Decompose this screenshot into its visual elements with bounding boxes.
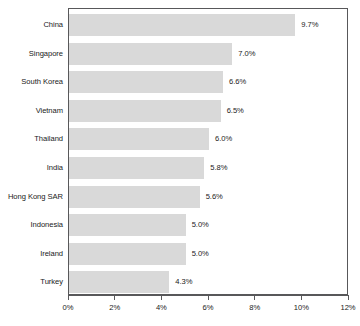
- x-axis-tick: [254, 295, 255, 300]
- bar-value-label: 4.3%: [175, 277, 192, 286]
- bar-value-label: 6.0%: [215, 134, 232, 143]
- bar-value-label: 9.7%: [301, 20, 318, 29]
- x-axis-tick-label: 6%: [203, 303, 214, 312]
- bar-value-label: 5.6%: [206, 192, 223, 201]
- x-axis-tick-label: 12%: [340, 303, 355, 312]
- category-label: Turkey: [0, 278, 63, 286]
- x-axis-tick: [114, 295, 115, 300]
- bar-chart: ChinaSingaporeSouth KoreaVietnamThailand…: [0, 0, 360, 326]
- bar-row: 5.6%: [69, 186, 347, 208]
- category-label: South Korea: [0, 78, 63, 86]
- bar-value-label: 6.5%: [227, 106, 244, 115]
- bar: [69, 128, 209, 150]
- x-axis-tick: [301, 295, 302, 300]
- x-axis-tick-label: 4%: [156, 303, 167, 312]
- category-label: Thailand: [0, 135, 63, 143]
- category-label: Hong Kong SAR: [0, 193, 63, 201]
- bar: [69, 271, 169, 293]
- bar-row: 9.7%: [69, 14, 347, 36]
- bar: [69, 243, 186, 265]
- bar-row: 6.0%: [69, 128, 347, 150]
- bar-row: 5.0%: [69, 243, 347, 265]
- category-axis: ChinaSingaporeSouth KoreaVietnamThailand…: [0, 9, 63, 295]
- x-axis-tick: [68, 295, 69, 300]
- bar-row: 6.6%: [69, 71, 347, 93]
- bar-value-label: 5.0%: [192, 220, 209, 229]
- x-axis-tick-label: 2%: [109, 303, 120, 312]
- bar: [69, 71, 223, 93]
- x-axis-tick-label: 10%: [294, 303, 309, 312]
- category-label: Ireland: [0, 250, 63, 258]
- bar: [69, 214, 186, 236]
- bar-row: 5.0%: [69, 214, 347, 236]
- x-axis-tick: [208, 295, 209, 300]
- category-label: India: [0, 164, 63, 172]
- category-label: Indonesia: [0, 221, 63, 229]
- x-axis-tick: [161, 295, 162, 300]
- bar: [69, 100, 221, 122]
- category-label: China: [0, 21, 63, 29]
- bar-row: 4.3%: [69, 271, 347, 293]
- category-label: Singapore: [0, 50, 63, 58]
- x-axis-tick-label: 8%: [249, 303, 260, 312]
- category-label: Vietnam: [0, 107, 63, 115]
- bar-value-label: 5.8%: [210, 163, 227, 172]
- bar-row: 6.5%: [69, 100, 347, 122]
- bar-value-label: 6.6%: [229, 77, 246, 86]
- x-axis-tick: [348, 295, 349, 300]
- bar-value-label: 7.0%: [238, 49, 255, 58]
- bar: [69, 43, 232, 65]
- bar: [69, 186, 200, 208]
- bar: [69, 14, 295, 36]
- bar-row: 7.0%: [69, 43, 347, 65]
- x-axis-tick-label: 0%: [63, 303, 74, 312]
- bar: [69, 157, 204, 179]
- bar-row: 5.8%: [69, 157, 347, 179]
- bar-value-label: 5.0%: [192, 249, 209, 258]
- plot-area: 9.7%7.0%6.6%6.5%6.0%5.8%5.6%5.0%5.0%4.3%: [68, 8, 348, 295]
